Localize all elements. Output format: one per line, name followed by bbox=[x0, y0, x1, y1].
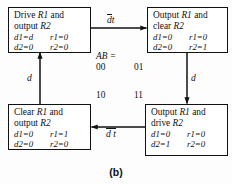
state-code-01: 01 bbox=[134, 62, 143, 73]
state-title-line2: output R2 bbox=[14, 21, 90, 32]
signal-row: d2=0r2=0 bbox=[14, 139, 90, 149]
state-box-clear-r1-output-r2[interactable]: Clear R1 and output R2 d1=0r1=1 d2=0r2=0 bbox=[8, 104, 91, 150]
signal-row: d1=0r1=0 bbox=[153, 32, 227, 42]
transition-label-left: d bbox=[27, 73, 32, 83]
state-title-line1: Output R1 and bbox=[151, 107, 227, 118]
state-title-line1: Output R1 and bbox=[153, 10, 227, 21]
state-title-line2: drive R2 bbox=[151, 118, 227, 129]
signal-row: d1=dr1=0 bbox=[14, 32, 90, 42]
state-box-output-r1-clear-r2[interactable]: Output R1 and clear R2 d1=0r1=0 d2=0r2=1 bbox=[147, 7, 228, 53]
transition-label-right: d bbox=[191, 73, 196, 83]
state-title-line1: Clear R1 and bbox=[14, 107, 90, 118]
state-title-line2: clear R2 bbox=[153, 21, 227, 32]
state-signals: d1=dr1=0 d2=0r2=0 bbox=[14, 32, 90, 52]
state-code-10: 10 bbox=[96, 90, 105, 101]
signal-row: d2=1r2=0 bbox=[151, 139, 227, 149]
figure-caption: (b) bbox=[0, 166, 232, 178]
state-code-11: 11 bbox=[134, 90, 143, 101]
state-box-drive-r1-output-r2[interactable]: Drive R1 and output R2 d1=dr1=0 d2=0r2=0 bbox=[8, 7, 91, 53]
state-signals: d1=0r1=0 d2=1r2=0 bbox=[151, 129, 227, 149]
state-signals: d1=0r1=1 d2=0r2=0 bbox=[14, 129, 90, 149]
signal-row: d1=0r1=1 bbox=[14, 129, 90, 139]
state-box-output-r1-drive-r2[interactable]: Output R1 and drive R2 d1=0r1=0 d2=1r2=0 bbox=[145, 104, 228, 156]
signal-row: d1=0r1=0 bbox=[151, 129, 227, 139]
transition-label-top: dt bbox=[107, 14, 114, 25]
state-signals: d1=0r1=0 d2=0r2=1 bbox=[153, 32, 227, 52]
transition-label-bottom: d t bbox=[106, 128, 116, 139]
signal-row: d2=0r2=0 bbox=[14, 42, 90, 52]
state-title-line1: Drive R1 and bbox=[14, 10, 90, 21]
state-title-line2: output R2 bbox=[14, 118, 90, 129]
state-code-00: 00 bbox=[96, 62, 105, 73]
state-transition-diagram: Drive R1 and output R2 d1=dr1=0 d2=0r2=0… bbox=[0, 0, 232, 184]
ab-input-label: AB = bbox=[96, 51, 116, 62]
signal-row: d2=0r2=1 bbox=[153, 42, 227, 52]
